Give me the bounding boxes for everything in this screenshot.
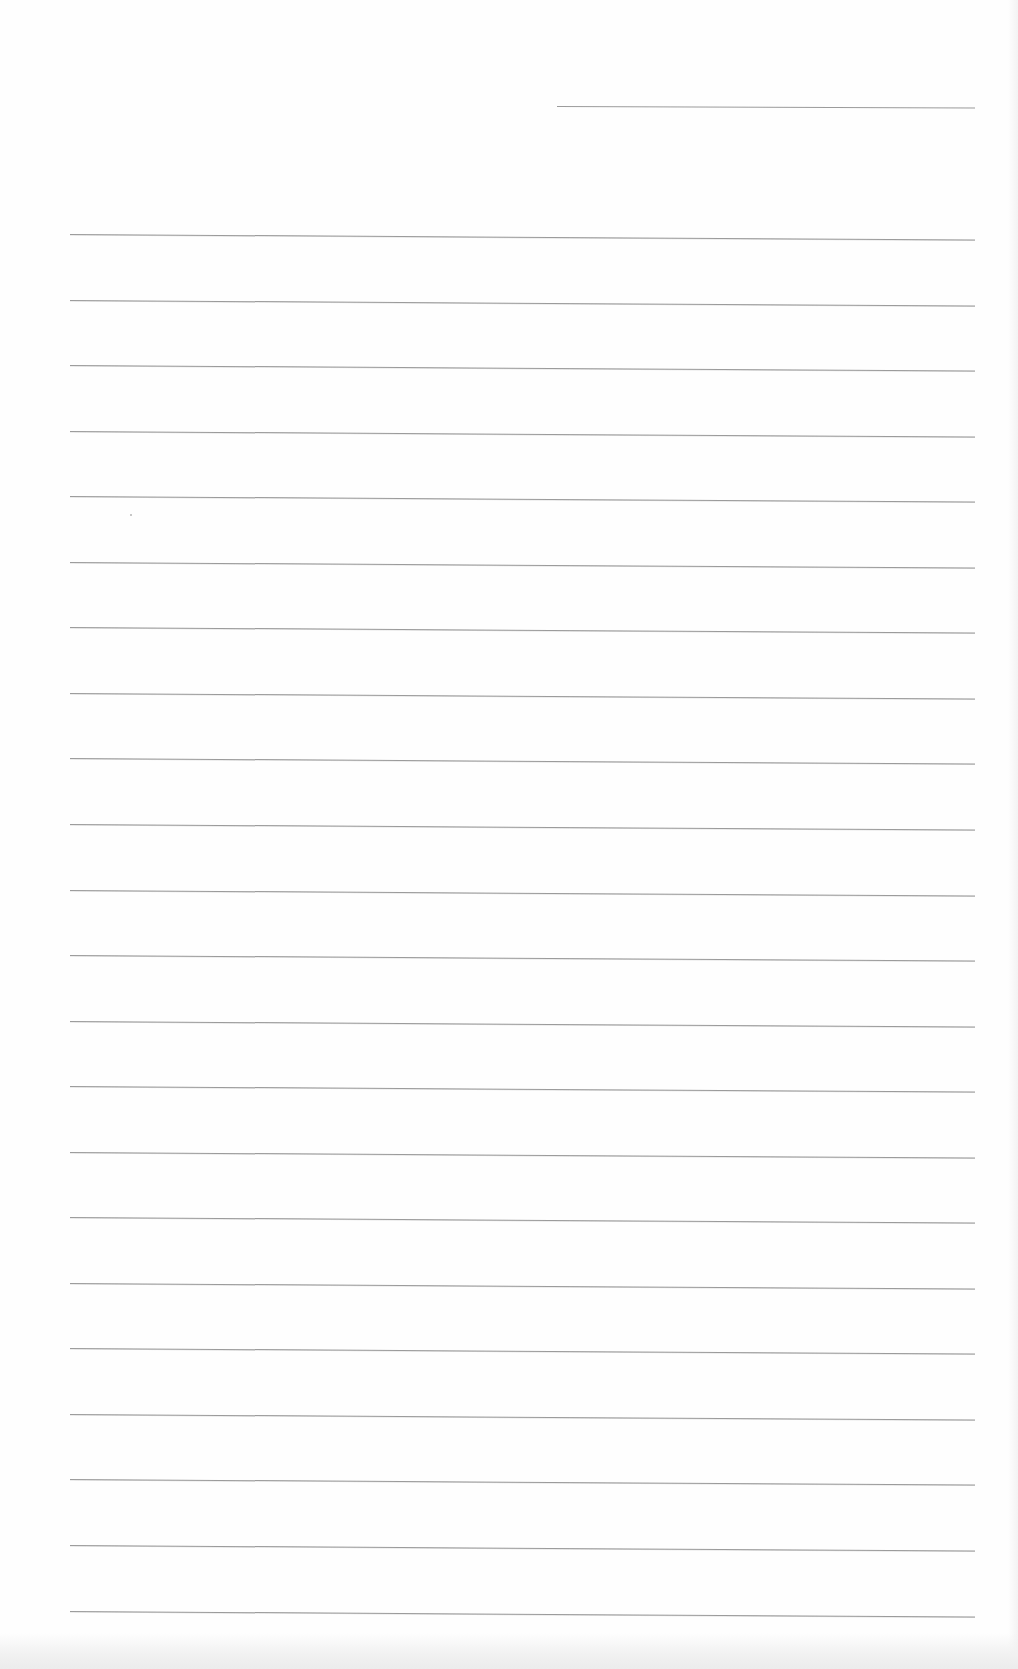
scan-speck — [130, 514, 132, 516]
ruled-line — [70, 1217, 975, 1224]
ruled-line — [70, 1479, 975, 1486]
ruled-line — [70, 1348, 975, 1355]
ruled-line — [70, 496, 975, 503]
ruled-line — [70, 234, 975, 241]
ruled-line — [70, 365, 975, 372]
ruled-line — [70, 1545, 975, 1552]
ruled-line — [70, 1414, 975, 1421]
ruled-line — [70, 890, 975, 897]
ruled-line — [70, 562, 975, 569]
ruled-line — [70, 1021, 975, 1028]
ruled-line — [70, 955, 975, 962]
ruled-line — [70, 1152, 975, 1159]
ruled-line — [70, 693, 975, 700]
header-line — [557, 106, 975, 108]
ruled-line — [70, 758, 975, 765]
ruled-line — [70, 431, 975, 438]
ruled-line — [70, 627, 975, 634]
ruled-line — [70, 300, 975, 307]
scan-bottom-band — [0, 1633, 1018, 1669]
scan-edge-shade — [1008, 0, 1018, 1669]
ruled-line — [70, 824, 975, 831]
ruled-line — [70, 1611, 975, 1618]
lined-paper-page — [0, 0, 1018, 1669]
ruled-line — [70, 1283, 975, 1290]
ruled-line — [70, 1086, 975, 1093]
